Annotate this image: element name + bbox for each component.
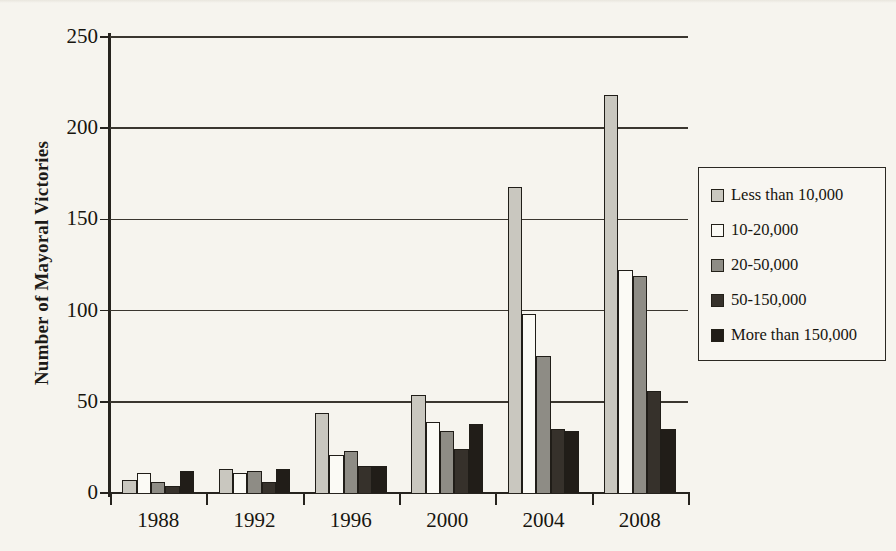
bar[interactable] bbox=[522, 314, 536, 493]
scan-edge bbox=[0, 0, 896, 3]
y-tick-mark-50 bbox=[100, 401, 109, 403]
bar[interactable] bbox=[440, 431, 454, 493]
legend-item[interactable]: Less than 10,000 bbox=[711, 178, 877, 213]
legend-swatch-icon bbox=[711, 259, 724, 272]
x-tick-mark-end bbox=[688, 494, 690, 505]
legend-label: 10-20,000 bbox=[731, 222, 798, 239]
legend-label: 50-150,000 bbox=[731, 292, 807, 309]
x-tick-label-2000: 2000 bbox=[392, 508, 502, 533]
legend: Less than 10,00010-20,00020-50,00050-150… bbox=[698, 167, 886, 361]
y-tick-mark-100 bbox=[100, 310, 109, 312]
bar-group-2000 bbox=[411, 37, 483, 493]
gridline-100 bbox=[110, 310, 688, 312]
bar[interactable] bbox=[233, 473, 247, 493]
x-tick-label-1992: 1992 bbox=[200, 508, 310, 533]
bar[interactable] bbox=[536, 356, 550, 493]
x-tick-label-1996: 1996 bbox=[296, 508, 406, 533]
bar[interactable] bbox=[426, 422, 440, 493]
plot-area bbox=[110, 37, 688, 493]
bar[interactable] bbox=[411, 395, 425, 493]
bar[interactable] bbox=[618, 270, 632, 493]
bar[interactable] bbox=[151, 482, 165, 493]
y-tick-mark-200 bbox=[100, 127, 109, 129]
x-tick-label-1988: 1988 bbox=[103, 508, 213, 533]
legend-label: Less than 10,000 bbox=[731, 187, 843, 204]
bar[interactable] bbox=[469, 424, 483, 493]
bar[interactable] bbox=[329, 455, 343, 493]
x-tick-mark-2004 bbox=[495, 494, 497, 505]
bar[interactable] bbox=[454, 449, 468, 493]
legend-swatch-icon bbox=[711, 294, 724, 307]
bar[interactable] bbox=[315, 413, 329, 493]
legend-item[interactable]: More than 150,000 bbox=[711, 318, 877, 353]
x-tick-label-2004: 2004 bbox=[489, 508, 599, 533]
legend-item[interactable]: 20-50,000 bbox=[711, 248, 877, 283]
bar[interactable] bbox=[344, 451, 358, 493]
bar[interactable] bbox=[276, 469, 290, 493]
x-tick-mark-2000 bbox=[399, 494, 401, 505]
y-tick-label-200: 200 bbox=[38, 117, 98, 138]
bar-chart: Number of Mayoral Victories 050100150200… bbox=[0, 0, 896, 551]
bar-group-2004 bbox=[508, 37, 580, 493]
bar[interactable] bbox=[137, 473, 151, 493]
legend-swatch-icon bbox=[711, 224, 724, 237]
y-tick-label-150: 150 bbox=[38, 208, 98, 229]
legend-label: More than 150,000 bbox=[731, 327, 857, 344]
bar[interactable] bbox=[262, 482, 276, 493]
bar[interactable] bbox=[633, 276, 647, 493]
bar[interactable] bbox=[358, 466, 372, 493]
bar[interactable] bbox=[122, 480, 136, 493]
x-tick-mark-1996 bbox=[303, 494, 305, 505]
y-tick-label-250: 250 bbox=[38, 26, 98, 47]
y-axis-tick-labels: 050100150200250 bbox=[32, 37, 98, 493]
bar[interactable] bbox=[647, 391, 661, 493]
gridline-250 bbox=[110, 36, 688, 38]
x-tick-label-2008: 2008 bbox=[585, 508, 695, 533]
gridline-200 bbox=[110, 127, 688, 129]
bar[interactable] bbox=[372, 466, 386, 493]
y-tick-mark-150 bbox=[100, 219, 109, 221]
bar-group-1992 bbox=[219, 37, 291, 493]
bar[interactable] bbox=[661, 429, 675, 493]
bar[interactable] bbox=[604, 95, 618, 493]
x-tick-mark-2008 bbox=[592, 494, 594, 505]
legend-item[interactable]: 10-20,000 bbox=[711, 213, 877, 248]
bar[interactable] bbox=[180, 471, 194, 493]
legend-item[interactable]: 50-150,000 bbox=[711, 283, 877, 318]
bar[interactable] bbox=[219, 469, 233, 493]
bar[interactable] bbox=[565, 431, 579, 493]
x-tick-mark-1988 bbox=[110, 494, 112, 505]
y-tick-mark-250 bbox=[100, 36, 109, 38]
gridline-50 bbox=[110, 401, 688, 403]
bar[interactable] bbox=[551, 429, 565, 493]
legend-swatch-icon bbox=[711, 329, 724, 342]
y-tick-label-0: 0 bbox=[38, 482, 98, 503]
y-tick-label-50: 50 bbox=[38, 391, 98, 412]
bar[interactable] bbox=[165, 486, 179, 493]
x-tick-mark-1992 bbox=[206, 494, 208, 505]
bar-group-2008 bbox=[604, 37, 676, 493]
y-tick-mark-0 bbox=[100, 492, 109, 494]
bar-group-1988 bbox=[122, 37, 194, 493]
bar[interactable] bbox=[247, 471, 261, 493]
bar[interactable] bbox=[508, 187, 522, 493]
gridline-150 bbox=[110, 219, 688, 221]
bar-group-1996 bbox=[315, 37, 387, 493]
legend-swatch-icon bbox=[711, 189, 724, 202]
y-tick-label-100: 100 bbox=[38, 300, 98, 321]
legend-label: 20-50,000 bbox=[731, 257, 798, 274]
